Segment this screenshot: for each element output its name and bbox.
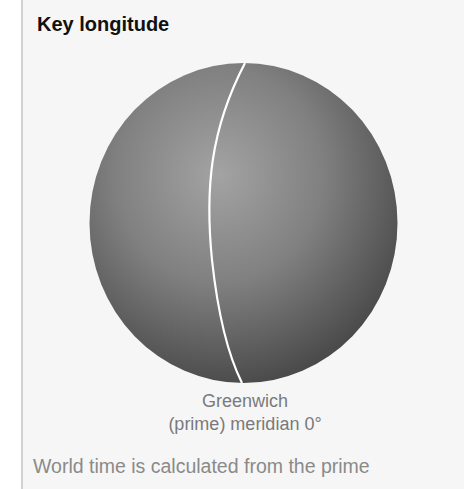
meridian-label-line2: (prime) meridian 0° — [150, 413, 340, 436]
meridian-label: Greenwich (prime) meridian 0° — [150, 390, 340, 436]
meridian-label-line1: Greenwich — [150, 390, 340, 413]
globe-sphere — [90, 63, 398, 383]
body-paragraph: World time is calculated from the prime — [33, 455, 370, 478]
